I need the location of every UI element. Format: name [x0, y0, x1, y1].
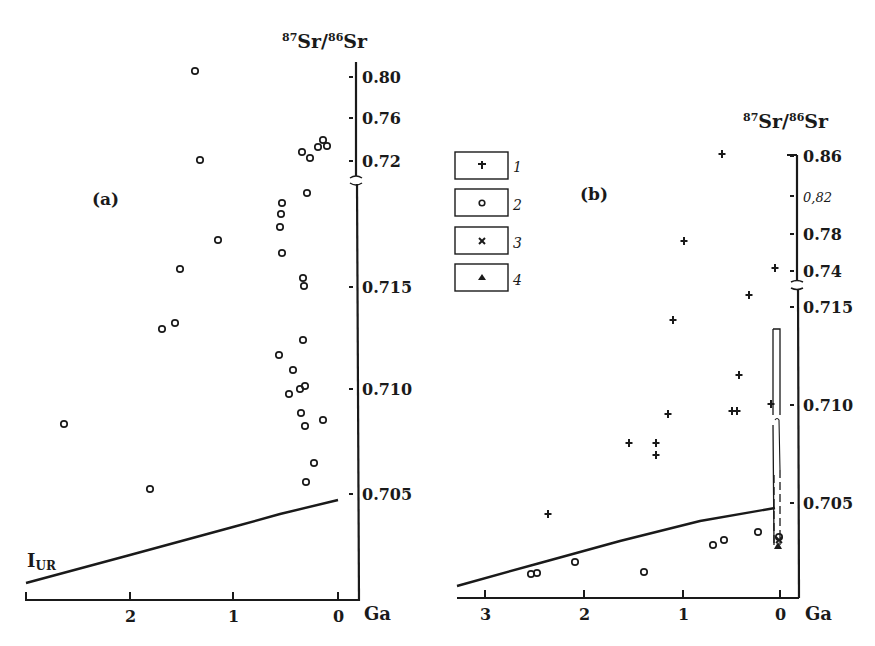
circle-marker-icon — [61, 421, 67, 427]
circle-marker-icon — [320, 137, 326, 143]
y-tick: 0.715 — [790, 298, 853, 317]
y-tick-label: 0,82 — [803, 190, 832, 205]
circle-marker-icon — [279, 250, 285, 256]
circle-marker-icon — [303, 479, 309, 485]
circle-marker-icon — [147, 486, 153, 492]
panel-a-label: (a) — [92, 189, 119, 209]
x-tick-label: 1 — [678, 605, 689, 624]
y-tick-label: 0.710 — [803, 396, 853, 415]
y-tick-label: 0.705 — [803, 494, 853, 513]
plus-marker-icon — [665, 410, 672, 418]
circle-marker-icon — [300, 275, 306, 281]
legend: 1 2 3 4 — [455, 152, 522, 291]
panel-a-y-axis-lower — [357, 184, 359, 601]
y-tick-label: 0.76 — [362, 109, 401, 128]
panel-b-label: (b) — [580, 184, 608, 204]
plus-marker-icon — [734, 407, 741, 415]
y-tick-label: 0.72 — [362, 152, 401, 171]
plus-marker-icon — [653, 451, 660, 459]
panel-a-iur-line — [26, 500, 338, 583]
x-tick: 2 — [125, 592, 136, 626]
x-tick: 1 — [228, 592, 239, 626]
panel-b-x-ticks: 3210 — [480, 590, 786, 624]
panel-a-y-axis-label: 87Sr/86Sr — [282, 30, 368, 52]
x-tick-label: 1 — [228, 607, 239, 626]
panel-a-data-points — [61, 68, 330, 492]
circle-marker-icon — [278, 211, 284, 217]
circle-marker-icon — [197, 157, 203, 163]
legend-cross-icon — [479, 238, 485, 244]
circle-marker-icon — [304, 190, 310, 196]
plus-marker-icon — [653, 439, 660, 447]
circle-marker-icon — [159, 326, 165, 332]
plus-marker-icon — [545, 510, 552, 518]
circle-marker-icon — [315, 144, 321, 150]
y-tick-label: 0.78 — [803, 225, 842, 244]
panel-a-x-ticks: 210 — [125, 592, 344, 626]
x-tick-label: 0 — [775, 605, 786, 624]
legend-item-1: 1 — [455, 152, 522, 179]
plus-marker-icon — [670, 316, 677, 324]
panel-b-axis-break-icon — [791, 281, 803, 290]
circle-marker-icon — [279, 200, 285, 206]
x-tick: 2 — [579, 590, 590, 624]
circle-marker-icon — [710, 542, 716, 548]
plus-marker-icon — [719, 150, 726, 158]
x-tick: 0 — [333, 592, 344, 626]
x-tick-label: 3 — [480, 605, 491, 624]
legend-item-2: 2 — [455, 189, 522, 216]
circle-marker-icon — [172, 320, 178, 326]
circle-marker-icon — [324, 143, 330, 149]
panel-b-y-axis-lower — [798, 289, 799, 598]
legend-label-2: 2 — [512, 197, 522, 213]
plus-marker-icon — [626, 439, 633, 447]
circle-marker-icon — [177, 266, 183, 272]
panel-a-axis-break-icon — [350, 176, 362, 185]
y-tick-label: 0.74 — [803, 262, 842, 281]
circle-marker-icon — [572, 559, 578, 565]
x-tick-label: 0 — [333, 607, 344, 626]
panel-b-range-box — [773, 329, 780, 545]
circle-marker-icon — [320, 417, 326, 423]
y-tick-label: 0.705 — [362, 485, 412, 504]
panel-a: 87Sr/86Sr 0.800.760.720.7150.7100.705 21… — [25, 30, 412, 626]
circle-marker-icon — [276, 352, 282, 358]
panel-b-y-axis-label: 87Sr/86Sr — [743, 110, 829, 132]
circle-marker-icon — [301, 283, 307, 289]
plus-marker-icon — [746, 291, 753, 299]
y-tick-label: 0.80 — [362, 68, 401, 87]
plus-marker-icon — [736, 371, 743, 379]
legend-triangle-icon — [478, 274, 486, 280]
x-tick: 0 — [775, 590, 786, 624]
circle-marker-icon — [721, 537, 727, 543]
circle-marker-icon — [192, 68, 198, 74]
panel-b: 87Sr/86Sr 0.860,820.780.740.7150.7100.70… — [457, 110, 853, 624]
y-tick-label: 0.86 — [803, 147, 842, 166]
circle-marker-icon — [300, 337, 306, 343]
x-tick: 1 — [678, 590, 689, 624]
legend-item-3: 3 — [455, 227, 522, 254]
circle-marker-icon — [290, 367, 296, 373]
x-tick-label: 2 — [125, 607, 136, 626]
circle-marker-icon — [755, 529, 761, 535]
plus-marker-icon — [681, 237, 688, 245]
strontium-isotope-figure: 87Sr/86Sr 0.800.760.720.7150.7100.705 21… — [0, 0, 875, 646]
circle-marker-icon — [641, 569, 647, 575]
panel-a-iur-label: IUR — [27, 550, 57, 573]
circle-marker-icon — [286, 391, 292, 397]
circle-marker-icon — [215, 237, 221, 243]
circle-marker-icon — [302, 423, 308, 429]
y-tick-label: 0.710 — [362, 380, 412, 399]
circle-marker-icon — [307, 155, 313, 161]
circle-marker-icon — [299, 149, 305, 155]
legend-plus-icon — [478, 161, 486, 169]
plus-marker-icon — [772, 264, 779, 272]
x-tick-label: 2 — [579, 605, 590, 624]
y-tick-label: 0.715 — [362, 278, 412, 297]
legend-label-3: 3 — [513, 235, 522, 251]
circle-marker-icon — [277, 224, 283, 230]
circle-marker-icon — [297, 386, 303, 392]
panel-a-x-axis-label: Ga — [364, 603, 391, 624]
panel-b-iur-line — [457, 508, 775, 586]
legend-circle-icon — [479, 200, 485, 206]
